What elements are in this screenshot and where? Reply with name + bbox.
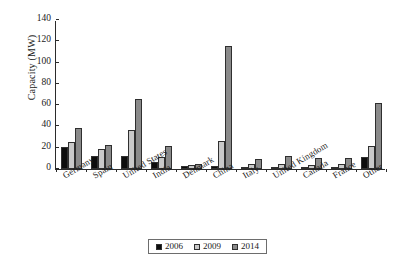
y-axis-title: Capacity (MW) [26, 0, 37, 143]
bar-2014-other [375, 103, 382, 169]
y-tick-mark [56, 19, 59, 20]
bar-group [91, 21, 112, 169]
chart-legend: 200620092014 [148, 239, 267, 254]
bar-2006-germany [61, 147, 68, 169]
legend-entry-2009: 2009 [194, 242, 221, 251]
legend-swatch-2014 [232, 244, 238, 250]
bar-group [241, 21, 262, 169]
bar-group [121, 21, 142, 169]
y-tick-label: 120 [37, 34, 51, 44]
y-tick-label: 40 [42, 119, 52, 129]
bar-group [211, 21, 232, 169]
bar-series-container [56, 21, 385, 169]
bar-group [61, 21, 82, 169]
legend-swatch-2009 [194, 244, 200, 250]
x-tick-mark [386, 169, 387, 172]
bar-group [331, 21, 352, 169]
legend-entry-2014: 2014 [232, 242, 259, 251]
y-tick-label: 140 [37, 13, 51, 23]
bar-group [361, 21, 382, 169]
legend-label-2014: 2014 [241, 242, 259, 251]
legend-swatch-2006 [156, 244, 162, 250]
bar-group [181, 21, 202, 169]
bar-2014-china [225, 46, 232, 169]
legend-label-2009: 2009 [203, 242, 221, 251]
bar-group [271, 21, 292, 169]
legend-entry-2006: 2006 [156, 242, 183, 251]
y-tick-label: 80 [42, 77, 52, 87]
y-tick-label: 0 [46, 162, 51, 172]
y-tick-label: 20 [42, 141, 52, 151]
legend-label-2006: 2006 [165, 242, 183, 251]
bar-2014-united-states [135, 99, 142, 169]
x-axis-labels: GermanySpainUnited StatesIndiaDenmarkChi… [55, 172, 385, 234]
bar-chart-figure: Capacity (MW) 020406080100120140 Germany… [0, 0, 395, 271]
y-tick-label: 100 [37, 56, 51, 66]
bar-2006-united-states [121, 156, 128, 169]
y-tick-label: 60 [42, 98, 52, 108]
plot-area: 020406080100120140 [55, 21, 385, 170]
